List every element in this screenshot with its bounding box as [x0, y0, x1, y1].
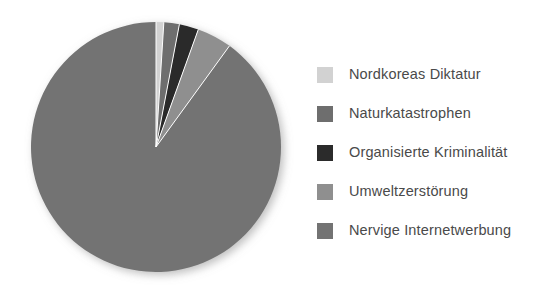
pie-chart-figure: Nordkoreas DiktaturNaturkatastrophenOrga…: [0, 0, 560, 297]
legend-swatch-wrapper: [317, 94, 347, 133]
pie-chart-plot-area: [0, 0, 300, 297]
legend-item-label: Nordkoreas Diktatur: [347, 67, 481, 82]
chart-legend: Nordkoreas DiktaturNaturkatastrophenOrga…: [317, 55, 557, 250]
legend-item-label: Nervige Internetwerbung: [347, 223, 511, 238]
pie-chart-svg: [0, 0, 300, 297]
legend-item-label: Organisierte Kriminalität: [347, 145, 507, 160]
legend-swatch-organisierte-kriminalitaet: [317, 145, 333, 161]
legend-item[interactable]: Nordkoreas Diktatur: [317, 55, 557, 94]
legend-swatch-wrapper: [317, 55, 347, 94]
legend-swatch-naturkatastrophen: [317, 106, 333, 122]
legend-swatch-wrapper: [317, 211, 347, 250]
legend-swatch-wrapper: [317, 133, 347, 172]
legend-swatch-nordkoreas-diktatur: [317, 67, 333, 83]
legend-item[interactable]: Nervige Internetwerbung: [317, 211, 557, 250]
legend-item[interactable]: Naturkatastrophen: [317, 94, 557, 133]
legend-item-label: Umweltzerstörung: [347, 184, 468, 199]
legend-swatch-wrapper: [317, 172, 347, 211]
legend-item[interactable]: Umweltzerstörung: [317, 172, 557, 211]
legend-swatch-nervige-internetwerbung: [317, 223, 333, 239]
legend-item-label: Naturkatastrophen: [347, 106, 471, 121]
legend-item[interactable]: Organisierte Kriminalität: [317, 133, 557, 172]
legend-swatch-umweltzerstoerung: [317, 184, 333, 200]
